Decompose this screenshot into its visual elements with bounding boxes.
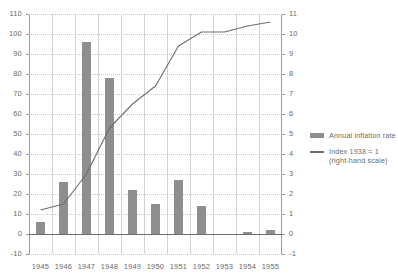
legend-label-inflation: Annual inflation rate — [329, 131, 396, 140]
right-axis-tick-label: 7 — [289, 90, 309, 98]
right-axis-tick-label: 0 — [289, 230, 309, 238]
plot-area — [29, 14, 282, 254]
right-tick — [282, 14, 285, 15]
right-tick — [282, 74, 285, 75]
right-axis-tick-label: 1 — [289, 210, 309, 218]
right-tick — [282, 34, 285, 35]
right-axis-tick-label: 3 — [289, 170, 309, 178]
inflation-chart: -100102030405060708090100110 -1012345678… — [0, 0, 398, 280]
left-axis-tick-label: 100 — [0, 30, 22, 38]
legend-label-index: Index 1938 = 1 — [329, 147, 396, 156]
left-axis-tick-label: 70 — [0, 90, 22, 98]
left-axis-tick-label: 10 — [0, 210, 22, 218]
bar-swatch-icon — [310, 133, 324, 138]
left-axis-tick-label: 0 — [0, 230, 22, 238]
left-axis-tick-label: 40 — [0, 150, 22, 158]
right-tick — [282, 134, 285, 135]
left-axis-tick-label: 30 — [0, 170, 22, 178]
right-tick — [282, 194, 285, 195]
left-axis-tick-label: 60 — [0, 110, 22, 118]
right-tick — [282, 234, 285, 235]
right-axis-tick-label: 11 — [289, 10, 309, 18]
right-tick — [282, 54, 285, 55]
left-axis-tick-label: 110 — [0, 10, 22, 18]
legend-item-bars: Annual inflation rate — [310, 131, 396, 140]
right-axis-tick-label: -1 — [289, 250, 309, 258]
left-axis-tick-label: 20 — [0, 190, 22, 198]
right-tick — [282, 174, 285, 175]
right-axis-tick-label: 5 — [289, 130, 309, 138]
x-axis-tick-label: 1955 — [254, 263, 288, 271]
line-series — [29, 14, 282, 254]
gridline — [29, 254, 282, 255]
right-axis-tick-label: 9 — [289, 50, 309, 58]
legend-item-line: Index 1938 = 1 (right-hand scale) — [310, 147, 396, 165]
right-tick — [282, 94, 285, 95]
right-tick — [282, 254, 285, 255]
line-swatch-icon — [310, 151, 324, 153]
left-axis-tick-label: 90 — [0, 50, 22, 58]
right-tick — [282, 154, 285, 155]
index-line-path — [41, 22, 271, 210]
right-axis-tick-label: 2 — [289, 190, 309, 198]
right-axis-tick-label: 10 — [289, 30, 309, 38]
zero-baseline — [29, 234, 282, 235]
right-tick — [282, 214, 285, 215]
right-tick — [282, 114, 285, 115]
legend-sublabel-index: (right-hand scale) — [329, 156, 396, 165]
right-axis-tick-label: 6 — [289, 110, 309, 118]
left-tick — [26, 254, 29, 255]
left-axis-tick-label: -10 — [0, 250, 22, 258]
left-axis-tick-label: 80 — [0, 70, 22, 78]
right-axis-tick-label: 4 — [289, 150, 309, 158]
chart-legend: Annual inflation rate Index 1938 = 1 (ri… — [310, 131, 396, 172]
right-axis-tick-label: 8 — [289, 70, 309, 78]
left-axis-tick-label: 50 — [0, 130, 22, 138]
